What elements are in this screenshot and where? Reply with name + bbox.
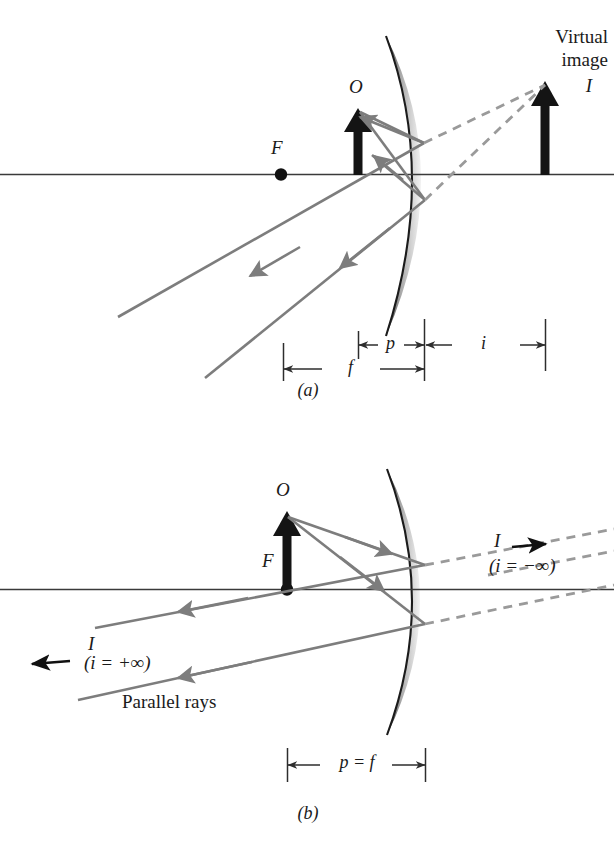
dimension-label-f-a: f <box>348 358 353 377</box>
label-image-a: I <box>460 76 592 96</box>
ray-b1-reflected <box>95 565 425 628</box>
label-image-b-right-note: (i = −∞) <box>489 556 556 576</box>
focal-point-a-dot <box>275 168 287 180</box>
label-object-a: O <box>349 77 363 97</box>
panel-b-graphics <box>0 469 614 782</box>
label-focal-point-a: F <box>271 138 283 158</box>
dimension-f-a <box>284 343 425 381</box>
dimension-label-i-a: i <box>481 334 486 353</box>
object-arrow-a <box>344 108 372 175</box>
caption-panel-b: (b) <box>263 804 353 823</box>
image-direction-arrow-left <box>32 661 70 664</box>
label-object-b: O <box>276 480 290 500</box>
ray-diagram-canvas <box>0 0 614 856</box>
ray-b1-reflected-arrowhead <box>178 598 248 612</box>
figure-root: F O Virtual image I p i f (a) O F I (i =… <box>0 0 614 856</box>
label-image-b-left-note: (i = +∞) <box>84 653 151 673</box>
ray-a1-reflected-arrowhead <box>250 247 300 276</box>
ray-a1-reflected <box>118 143 424 317</box>
label-image-b-right: I <box>494 531 500 551</box>
dimension-label-pf-b: p = f <box>321 753 393 772</box>
ray-a2-arrowhead-lower <box>340 228 390 268</box>
ray-b1-incident-arrowhead <box>345 537 392 554</box>
caption-panel-a: (a) <box>263 381 353 400</box>
ray-b2-reflected-arrowhead <box>178 662 252 678</box>
label-focal-point-b: F <box>262 551 274 571</box>
virtual-ray-a-lower-dashed <box>425 85 545 200</box>
dimension-label-p-a: p <box>386 334 395 353</box>
mirror-b-surface-line <box>387 469 412 735</box>
label-parallel-rays: Parallel rays <box>122 692 216 712</box>
label-virtual-image-line2: image <box>460 50 608 70</box>
label-virtual-image-line1: Virtual <box>460 27 608 47</box>
image-direction-arrow-right <box>512 544 546 547</box>
virtual-ray-b-lower-dashed <box>425 585 614 624</box>
mirror-b-body <box>387 469 420 735</box>
mirror-b <box>387 469 420 735</box>
